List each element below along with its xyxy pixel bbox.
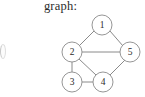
graph-edge-2-4	[79, 59, 96, 75]
graph-node-4-label: 4	[101, 77, 106, 87]
graph-node-2-label: 2	[70, 47, 75, 57]
graph-diagram: 1 2 5 3 4	[0, 0, 145, 97]
graph-node-1-label: 1	[100, 20, 105, 30]
graph-node-5[interactable]: 5	[120, 42, 140, 62]
graph-nodes: 1 2 5 3 4	[62, 15, 140, 92]
graph-node-2[interactable]: 2	[62, 42, 82, 62]
graph-node-3[interactable]: 3	[62, 72, 82, 92]
graph-edge-1-2	[79, 31, 94, 46]
graph-node-5-label: 5	[128, 47, 133, 57]
graph-edge-4-5	[110, 60, 125, 75]
figure-canvas: graph: 1 2 5	[0, 0, 145, 97]
graph-node-4[interactable]: 4	[93, 72, 113, 92]
graph-node-1[interactable]: 1	[92, 15, 112, 35]
graph-edge-1-5	[110, 31, 123, 46]
graph-node-3-label: 3	[70, 77, 75, 87]
